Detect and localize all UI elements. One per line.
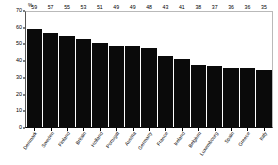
bar: [256, 70, 271, 129]
bars-container: 595755535149494843413837363635: [26, 11, 272, 128]
bar-value-label: 38: [195, 5, 201, 10]
x-axis-label-slot: Denmark: [26, 131, 42, 165]
x-axis-category-label: Austria: [124, 131, 137, 147]
x-axis-category-label: Portugal: [106, 131, 121, 149]
bar: [191, 65, 206, 129]
bar-value-label: 36: [245, 5, 251, 10]
x-axis-label-slot: Spain: [223, 131, 239, 165]
bar-value-label: 48: [146, 5, 152, 10]
y-axis-tick-label: 30: [16, 75, 22, 80]
bar-column: 59: [27, 11, 42, 128]
bar-value-label: 55: [64, 5, 70, 10]
bar-value-label: 49: [113, 5, 119, 10]
bar-column: 37: [207, 11, 222, 128]
bar-column: 53: [76, 11, 91, 128]
x-axis-category-label: Belgium: [188, 131, 202, 149]
bar-value-label: 36: [228, 5, 234, 10]
bar-value-label: 57: [48, 5, 54, 10]
x-axis-label-slot: Ireland: [174, 131, 190, 165]
x-axis-label-slot: Finland: [59, 131, 75, 165]
bar-column: 48: [141, 11, 156, 128]
x-axis-label-slot: Germany: [141, 131, 157, 165]
x-axis-category-label: Sweden: [40, 131, 54, 149]
y-axis-tick-label: 40: [16, 58, 22, 63]
bar-value-label: 49: [130, 5, 136, 10]
bar-column: 38: [191, 11, 206, 128]
y-axis-tick-mark: [23, 77, 25, 78]
x-axis-category-label: Greece: [238, 131, 252, 147]
bar: [141, 48, 156, 128]
y-axis: 010203040506070: [0, 11, 25, 128]
bar-column: 36: [223, 11, 238, 128]
bar: [109, 46, 124, 128]
bar-value-label: 59: [31, 5, 37, 10]
x-axis-label-slot: Italy: [256, 131, 272, 165]
y-axis-tick-label: 70: [16, 8, 22, 13]
bar: [92, 43, 107, 128]
x-axis-label-slot: Portugal: [108, 131, 124, 165]
x-axis-category-label: Holland: [90, 131, 104, 148]
y-axis-tick-label: 10: [16, 109, 22, 114]
bar-column: 51: [92, 11, 107, 128]
bar-column: 55: [59, 11, 74, 128]
y-axis-tick-label: 0: [19, 125, 22, 130]
x-axis-category-label: Ireland: [173, 131, 186, 146]
bar: [27, 29, 42, 128]
bar-value-label: 41: [179, 5, 185, 10]
bar: [158, 56, 173, 128]
x-axis-label-slot: France: [157, 131, 173, 165]
bar: [207, 66, 222, 128]
y-axis-tick-mark: [23, 11, 25, 12]
bar-column: 49: [109, 11, 124, 128]
bar: [174, 59, 189, 128]
y-axis-tick-mark: [23, 94, 25, 95]
bar: [43, 33, 58, 128]
bar: [59, 36, 74, 128]
bar-column: 57: [43, 11, 58, 128]
x-axis-label-slot: Sweden: [42, 131, 58, 165]
bar-value-label: 43: [163, 5, 169, 10]
bar: [125, 46, 140, 128]
bar: [240, 68, 255, 128]
y-axis-tick-mark: [23, 128, 25, 129]
x-axis-label-slot: Greece: [239, 131, 255, 165]
x-axis-category-label: Denmark: [23, 131, 39, 150]
bar-value-label: 37: [212, 5, 218, 10]
y-axis-tick-label: 20: [16, 92, 22, 97]
y-axis-tick-label: 50: [16, 42, 22, 47]
x-axis-category-label: Britain: [75, 131, 87, 145]
x-axis-category-label: Finland: [58, 131, 72, 147]
bar-value-label: 53: [81, 5, 87, 10]
bar-column: 49: [125, 11, 140, 128]
bar-column: 41: [174, 11, 189, 128]
y-axis-tick-mark: [23, 61, 25, 62]
y-axis-tick-label: 60: [16, 25, 22, 30]
bar-column: 43: [158, 11, 173, 128]
y-axis-tick-mark: [23, 111, 25, 112]
x-axis-category-label: Italy: [259, 131, 268, 141]
bar-value-label: 51: [97, 5, 103, 10]
bar: [76, 39, 91, 128]
y-axis-tick-mark: [23, 27, 25, 28]
bar-column: 35: [256, 11, 271, 128]
x-axis-label-slot: Holland: [92, 131, 108, 165]
bar-column: 36: [240, 11, 255, 128]
bar: [223, 68, 238, 128]
bar-value-label: 35: [261, 5, 267, 10]
bar-chart: % 010203040506070 5957555351494948434138…: [0, 0, 278, 165]
x-axis-category-label: France: [157, 131, 170, 147]
x-axis-category-label: Spain: [224, 131, 235, 144]
x-axis-label-slot: Luxembourg: [206, 131, 222, 165]
y-axis-tick-mark: [23, 44, 25, 45]
x-axis-labels: DenmarkSwedenFinlandBritainHollandPortug…: [26, 131, 272, 165]
x-axis-label-slot: Britain: [75, 131, 91, 165]
